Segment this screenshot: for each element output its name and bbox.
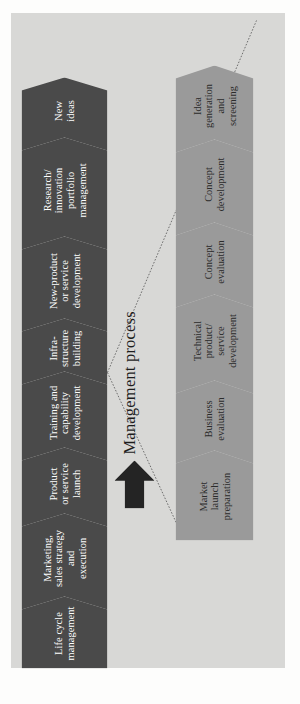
stage-business-evaluation[interactable]: Businessevaluation (175, 380, 253, 463)
stage-label: Infra-structurebuilding (47, 329, 82, 366)
stage-life-cycle-management[interactable]: Life cyclemanagement (21, 596, 107, 668)
stage-label: Life cyclemanagement (52, 606, 75, 660)
innovation-process-stages-row: Life cyclemanagement Marketing,sales str… (21, 13, 107, 668)
stage-label: Conceptdevelopment (202, 157, 225, 211)
diagram-stage: Life cyclemanagement Marketing,sales str… (11, 13, 285, 668)
stage-label: Conceptevaluation (202, 240, 225, 283)
stage-idea-generation-and-screening[interactable]: Ideagenerationandscreening (175, 65, 253, 152)
stage-concept-development[interactable]: Conceptdevelopment (175, 139, 253, 235)
stage-training-and-capability-development[interactable]: Training andcapabilitydevelopment (21, 371, 107, 460)
stage-label: Marketing,sales strategyandexecution (41, 529, 88, 586)
management-process-arrow (114, 460, 154, 508)
diagram-canvas: Life cyclemanagement Marketing,sales str… (0, 0, 300, 704)
stage-label: Training andcapabilitydevelopment (47, 385, 82, 440)
stage-label: Technicalproduct/servicedevelopment (191, 314, 238, 368)
stage-new-product-or-service-development[interactable]: New-productor servicedevelopment (21, 236, 107, 331)
stage-label: Ideagenerationandscreening (191, 84, 238, 128)
stage-research-innovation-portfolio-management[interactable]: Research/innovationportfoliomanagement (21, 137, 107, 249)
stage-label: Productor servicelaunch (47, 463, 82, 505)
new-product-development-substages-row: Marketlaunchpreparation Businessevaluati… (175, 13, 253, 540)
stage-market-launch-preparation[interactable]: Marketlaunchpreparation (175, 450, 253, 540)
management-process-caption: Management process (119, 311, 139, 454)
stage-technical-product-service-development[interactable]: Technicalproduct/servicedevelopment (175, 294, 253, 393)
stage-label: Newideas (52, 99, 75, 121)
stage-label: Businessevaluation (202, 397, 225, 440)
diagram-rotated-wrapper: Life cyclemanagement Marketing,sales str… (11, 13, 285, 668)
stage-label: Research/innovationportfoliomanagement (41, 163, 88, 217)
stage-label: New-productor servicedevelopment (47, 252, 82, 308)
stage-label: Marketlaunchpreparation (197, 472, 232, 519)
stage-concept-evaluation[interactable]: Conceptevaluation (175, 222, 253, 307)
stage-marketing-sales-strategy-and-execution[interactable]: Marketing,sales strategyandexecution (21, 513, 107, 609)
